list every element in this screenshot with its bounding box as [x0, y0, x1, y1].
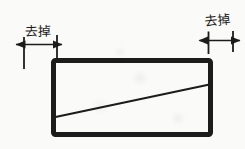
box-with-diagonal — [54, 61, 211, 135]
left-annotation-label: 去掉 — [25, 25, 50, 41]
right-arrowhead-inner — [199, 37, 209, 45]
diagonal-line — [56, 85, 210, 118]
drawing-canvas: 去掉 去掉 — [0, 0, 245, 149]
right-dimension-marker — [199, 31, 241, 54]
box-outline — [54, 61, 211, 135]
right-annotation-label: 去掉 — [204, 13, 230, 30]
